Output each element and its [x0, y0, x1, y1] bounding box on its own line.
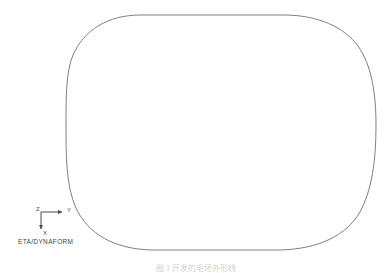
cad-viewport[interactable]: Z Y X ETA/DYNAFORM [0, 0, 392, 273]
outline-path [66, 15, 376, 250]
eta-dynaform-watermark: ETA/DYNAFORM [18, 238, 73, 246]
axis-label-z: Z [36, 206, 40, 212]
axis-label-x: X [43, 230, 47, 236]
figure-caption: 图 1 开发的毛坯外形线 [0, 264, 392, 273]
triad-axes-icon [22, 203, 84, 239]
axis-label-y: Y [67, 207, 71, 213]
coordinate-triad: Z Y X [22, 203, 84, 239]
